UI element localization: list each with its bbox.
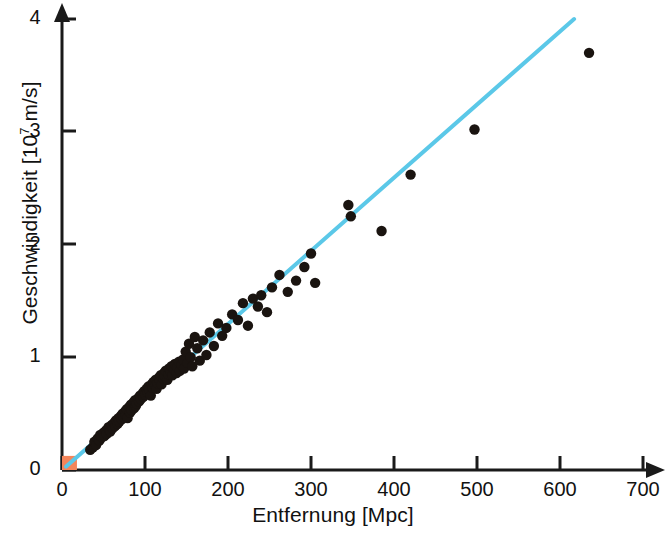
x-tick-label: 400 <box>364 478 424 501</box>
x-axis-ticks <box>62 456 643 470</box>
data-point <box>376 226 386 236</box>
data-point <box>253 301 263 311</box>
y-axis-label-base: Geschwindigkeit [10 <box>18 135 41 325</box>
data-point <box>291 275 301 285</box>
data-point <box>262 307 272 317</box>
y-axis-ticks <box>62 19 76 470</box>
x-axis-label: Entfernung [Mpc] <box>0 503 666 527</box>
x-tick-label: 200 <box>198 478 258 501</box>
data-point <box>205 327 215 337</box>
plot-canvas <box>0 0 666 539</box>
hubble-diagram-figure: Entfernung [Mpc] Geschwindigkeit [107 m/… <box>0 0 666 539</box>
data-point <box>243 320 253 330</box>
data-point <box>343 200 353 210</box>
y-axis-label-container: Geschwindigkeit [107 m/s] <box>17 8 47 398</box>
data-point <box>469 124 479 134</box>
data-point <box>209 341 219 351</box>
y-tick-label: 3 <box>22 119 48 142</box>
x-tick-label: 600 <box>530 478 590 501</box>
data-point <box>267 282 277 292</box>
data-point <box>274 270 284 280</box>
data-point <box>256 290 266 300</box>
x-tick-label: 0 <box>32 478 92 501</box>
x-tick-label: 700 <box>613 478 666 501</box>
y-tick-label: 1 <box>22 344 48 367</box>
y-axis-label: Geschwindigkeit [107 m/s] <box>17 8 42 398</box>
data-point <box>221 323 231 333</box>
data-point <box>185 352 195 362</box>
y-tick-label: 2 <box>22 232 48 255</box>
data-point <box>299 262 309 272</box>
data-point <box>233 315 243 325</box>
data-point <box>310 278 320 288</box>
x-tick-label: 300 <box>281 478 341 501</box>
data-point <box>584 48 594 58</box>
data-point <box>238 298 248 308</box>
data-point <box>405 169 415 179</box>
x-axis-arrow-icon <box>646 462 665 478</box>
data-point <box>201 350 211 360</box>
y-tick-label: 0 <box>22 457 48 480</box>
data-point <box>346 211 356 221</box>
axes-group <box>54 3 665 478</box>
x-tick-label: 100 <box>115 478 175 501</box>
data-point <box>283 287 293 297</box>
data-point <box>198 335 208 345</box>
data-layer <box>62 19 594 470</box>
y-tick-label: 4 <box>22 6 48 29</box>
data-point <box>306 248 316 258</box>
x-tick-label: 500 <box>447 478 507 501</box>
